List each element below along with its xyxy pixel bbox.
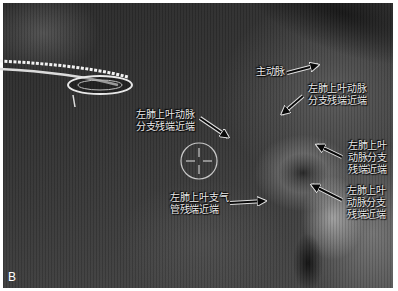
label-lul-artery-stump-left: 左肺上叶动脉 分支残端近端 bbox=[136, 109, 194, 133]
crosshair-icon bbox=[178, 140, 220, 182]
surgical-forceps-icon bbox=[0, 55, 140, 115]
label-lul-artery-stump-top: 左肺上叶动脉 分支残端近端 bbox=[308, 83, 366, 107]
label-lul-bronchus-stump: 左肺上叶支气 管残端近端 bbox=[170, 192, 228, 216]
label-lul-artery-stump-right-lower: 左肺上叶 动脉分支 残端近端 bbox=[347, 185, 386, 221]
label-aorta: 主动脉 bbox=[256, 66, 285, 78]
panel-label: B bbox=[8, 270, 16, 284]
label-lul-artery-stump-right-upper: 左肺上叶 动脉分支 残端近端 bbox=[348, 140, 387, 176]
